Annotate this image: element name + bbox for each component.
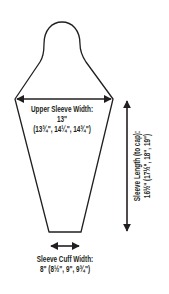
sleeve-length-label: Sleeve Length (to cap): 16½" (17½", 18",…	[133, 108, 153, 225]
sleeve-cuff-width-label: Sleeve Cuff Width: 8" (8½", 9", 9¾")	[26, 255, 104, 275]
sleeve-length-value: 16½" (17½", 18", 19")	[143, 108, 153, 225]
sleeve-cuff-width-value: 8" (8½", 9", 9¾")	[26, 265, 104, 275]
upper-sleeve-width-title: Upper Sleeve Width:	[15, 105, 109, 115]
upper-sleeve-width-sizes: (13¾", 14¼", 14¾")	[15, 125, 109, 135]
sleeve-length-title: Sleeve Length (to cap):	[133, 108, 143, 225]
sleeve-cuff-width-title: Sleeve Cuff Width:	[26, 255, 104, 265]
upper-sleeve-width-value: 13"	[15, 115, 109, 125]
upper-sleeve-width-label: Upper Sleeve Width: 13" (13¾", 14¼", 14¾…	[15, 105, 109, 135]
